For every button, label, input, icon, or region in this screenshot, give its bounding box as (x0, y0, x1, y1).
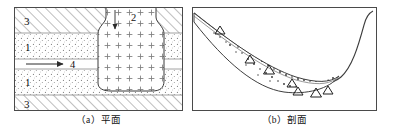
flow-arrow-4-label: 4 (70, 59, 76, 70)
layer-3-top-label: 3 (24, 15, 30, 27)
panel-cross-section (192, 7, 377, 111)
layer-3-bottom-label: 3 (24, 98, 30, 110)
caption-plan-view: （a）平面 (14, 112, 183, 126)
layer-1-upper-label: 1 (25, 41, 31, 53)
caption-cross-section: （b）剖面 (192, 112, 377, 126)
intrusion-2-label: 2 (131, 12, 136, 23)
deposit-wedge (194, 13, 339, 93)
figure-root: 4 2 3 1 1 3 （a）平面 (0, 0, 394, 138)
layer-3-bottom-band (14, 95, 183, 111)
cross-section-drawing (192, 7, 377, 111)
panel-plan-view: 4 2 3 1 1 3 (14, 7, 183, 111)
plan-view-drawing: 4 2 3 1 1 3 (14, 7, 183, 111)
section-content (194, 11, 373, 97)
plan-layers (14, 7, 183, 111)
layer-1-lower-label: 1 (25, 76, 31, 88)
section-frame (193, 8, 377, 111)
